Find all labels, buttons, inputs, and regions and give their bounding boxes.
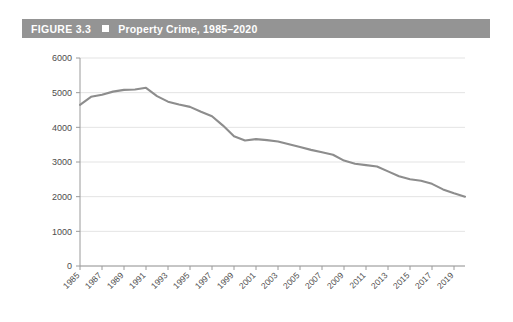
y-tick-label: 1000	[52, 227, 72, 237]
x-axis	[80, 266, 465, 270]
x-tick-label: 1993	[149, 270, 170, 291]
chart-plot-area: 0100020003000400050006000 19851987198919…	[0, 40, 513, 322]
data-series-group	[80, 88, 465, 197]
x-tick-label: 2011	[347, 270, 367, 290]
x-tick-label: 2003	[259, 270, 280, 291]
y-tick-label: 4000	[52, 123, 72, 133]
y-tick-label: 0	[67, 261, 72, 271]
x-tick-label: 2009	[325, 270, 346, 291]
x-tick-label: 2019	[435, 270, 456, 291]
x-tick-label: 1999	[215, 270, 236, 291]
x-tick-label: 2015	[391, 270, 412, 291]
x-tick-label: 1991	[127, 270, 148, 291]
y-tick-label: 2000	[52, 192, 72, 202]
figure-number-label: FIGURE 3.3	[31, 23, 91, 35]
y-axis-tick-labels: 0100020003000400050006000	[52, 53, 72, 271]
figure-title-bar: FIGURE 3.3 Property Crime, 1985–2020	[22, 19, 490, 38]
x-tick-label: 2005	[281, 270, 302, 291]
figure-title-label: Property Crime, 1985–2020	[118, 23, 257, 35]
y-tick-label: 3000	[52, 157, 72, 167]
square-bullet-icon	[102, 25, 109, 32]
x-tick-label: 2001	[237, 270, 258, 291]
line-chart: 0100020003000400050006000 19851987198919…	[0, 40, 513, 322]
x-tick-label: 1987	[83, 270, 104, 291]
x-tick-label: 1995	[171, 270, 192, 291]
y-axis	[76, 58, 80, 266]
figure-container: FIGURE 3.3 Property Crime, 1985–2020 010…	[0, 0, 513, 322]
x-tick-label: 2013	[369, 270, 390, 291]
x-tick-label: 1989	[105, 270, 126, 291]
x-tick-label: 1985	[61, 270, 82, 291]
x-tick-label: 1997	[193, 270, 214, 291]
x-axis-tick-labels: 1985198719891991199319951997199920012003…	[61, 270, 456, 291]
x-tick-label: 2017	[413, 270, 434, 291]
x-tick-label: 2007	[303, 270, 324, 291]
data-line-property-crime-rate	[80, 88, 465, 197]
y-tick-label: 5000	[52, 88, 72, 98]
y-tick-label: 6000	[52, 53, 72, 63]
